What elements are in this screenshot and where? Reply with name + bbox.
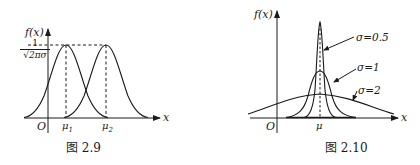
- fig1-xlabel: x: [163, 112, 169, 123]
- fig2-caption: 图 2.10: [325, 142, 368, 154]
- label-sigma-2: σ=2: [358, 85, 381, 96]
- fig1-origin-label: O: [37, 121, 46, 132]
- arrow-sigma-2: [353, 91, 357, 100]
- fig2-xlabel: x: [401, 112, 407, 123]
- arrow-sigma-1: [334, 69, 356, 82]
- fig2-mu-label: μ: [316, 121, 323, 131]
- fig2-origin-label: O: [266, 121, 275, 132]
- curve-sigma-2: [248, 94, 394, 114]
- fig1-ylabel: f(x): [25, 27, 44, 38]
- fig1-mu1-label: μ1: [62, 121, 73, 134]
- fig1-peak-denominator: √2πσ: [20, 50, 50, 60]
- arrow-sigma-0-5: [324, 37, 354, 50]
- label-sigma-0-5: σ=0.5: [356, 32, 389, 43]
- fig1-peak-value: 1 √2πσ: [20, 39, 50, 60]
- label-sigma-1: σ=1: [357, 62, 380, 73]
- fig1-caption: 图 2.9: [66, 142, 101, 154]
- fig1-peak-numerator: 1: [20, 39, 50, 50]
- subscript: 1: [69, 126, 73, 134]
- subscript: 2: [109, 126, 113, 134]
- fig2-ylabel: f(x): [254, 9, 273, 20]
- fig1-mu2-label: μ2: [102, 121, 113, 134]
